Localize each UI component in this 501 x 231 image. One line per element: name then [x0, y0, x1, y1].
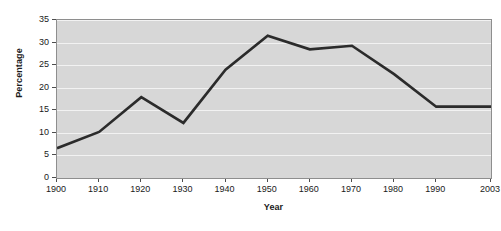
y-tick-label: 20	[5, 82, 49, 92]
x-tick-label: 1910	[75, 184, 121, 194]
y-tick-label: 30	[5, 37, 49, 47]
x-tick-label: 1920	[117, 184, 163, 194]
x-tick-label: 1930	[159, 184, 205, 194]
x-tick-label: 1960	[286, 184, 332, 194]
x-tick-label: 1980	[370, 184, 416, 194]
y-tick-label: 0	[5, 172, 49, 182]
y-tick-label: 25	[5, 59, 49, 69]
plot-area	[56, 19, 492, 179]
x-tick-label: 1970	[328, 184, 374, 194]
series-line-percentage	[57, 20, 491, 178]
y-tick-label: 10	[5, 127, 49, 137]
x-axis-title: Year	[56, 202, 491, 212]
line-chart-figure: Percentage Year 05101520253035 190019101…	[0, 0, 501, 231]
x-tick-label: 1900	[33, 184, 79, 194]
x-tick-label: 1950	[244, 184, 290, 194]
y-tick-label: 35	[5, 14, 49, 24]
y-tick-label: 5	[5, 149, 49, 159]
y-tick-label: 15	[5, 104, 49, 114]
x-tick-label: 2003	[467, 184, 501, 194]
x-tick-label: 1940	[202, 184, 248, 194]
x-tick-label: 1990	[412, 184, 458, 194]
